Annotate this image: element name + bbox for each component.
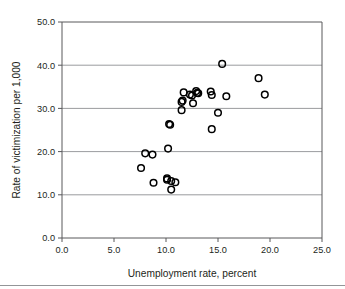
y-tick-label-3: 30.0	[37, 104, 55, 114]
y-tick-label-5: 50.0	[37, 17, 55, 27]
chart-canvas: 0.010.020.030.040.050.0 0.05.010.015.020…	[0, 0, 345, 289]
x-tick-label-0: 0.0	[56, 245, 69, 255]
y-tick-label-1: 10.0	[37, 190, 55, 200]
x-tick-label-5: 25.0	[313, 245, 331, 255]
scatter-chart-figure: 0.010.020.030.040.050.0 0.05.010.015.020…	[0, 0, 345, 289]
x-tick-label-4: 20.0	[261, 245, 279, 255]
x-tick-label-1: 5.0	[108, 245, 121, 255]
y-tick-label-4: 40.0	[37, 61, 55, 71]
x-axis-title: Unemployment rate, percent	[128, 268, 257, 279]
x-tick-label-2: 10.0	[157, 245, 175, 255]
y-axis-title: Rate of victimization per 1,000	[11, 61, 22, 198]
y-tick-label-0: 0.0	[42, 233, 55, 243]
y-tick-label-2: 20.0	[37, 147, 55, 157]
x-tick-label-3: 15.0	[209, 245, 227, 255]
